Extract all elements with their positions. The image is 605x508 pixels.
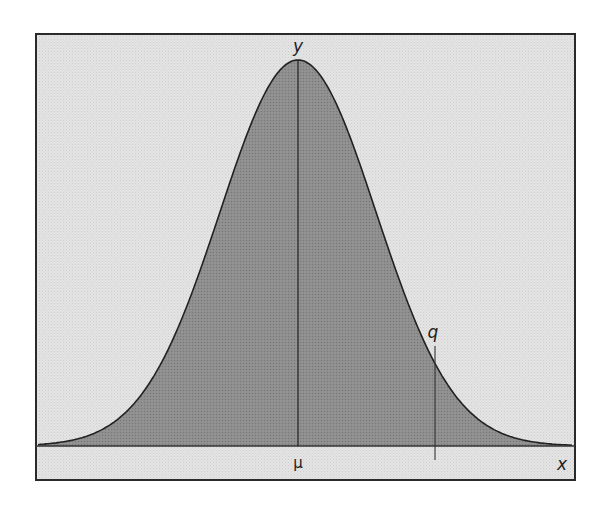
mu-label: μ [293,454,303,472]
x-axis-label: x [556,454,568,474]
q-label: q [428,322,439,342]
normal-distribution-diagram: y x μ q [0,0,605,508]
y-axis-label: y [292,36,304,56]
